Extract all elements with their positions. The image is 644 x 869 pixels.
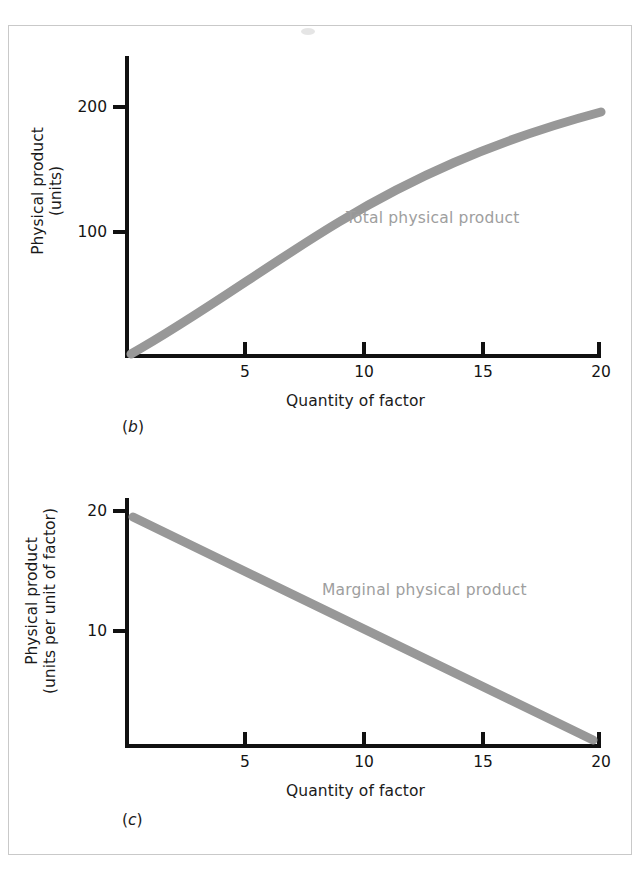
chart-panel-c: 20 10 5 10 15 20 Physical product (units… [9, 441, 633, 856]
total-physical-product-curve [131, 112, 601, 354]
x-axis-title: Quantity of factor [286, 392, 425, 410]
x-tick-label-20: 20 [581, 753, 621, 771]
y-axis-title-line2: (units per unit of factor) [41, 508, 59, 694]
x-tick-label-20: 20 [581, 363, 621, 381]
y-axis-title-line2: (units) [47, 166, 65, 216]
panel-tag-c: (c) [122, 811, 143, 829]
figure-frame: 200 100 5 10 15 20 Physical product (uni… [8, 25, 632, 855]
x-axis-title: Quantity of factor [286, 782, 425, 800]
y-axis-title: Physical product (units) [29, 76, 66, 306]
x-tick-label-5: 5 [225, 363, 265, 381]
x-tick-label-15: 15 [463, 363, 503, 381]
y-axis-title: Physical product (units per unit of fact… [23, 461, 60, 741]
marginal-physical-product-line [133, 517, 593, 740]
x-tick-label-5: 5 [225, 753, 265, 771]
y-axis-title-line1: Physical product [23, 537, 41, 665]
panel-tag-b-letter: b [128, 418, 138, 436]
panel-tag-b: (b) [122, 418, 144, 436]
total-physical-product-label: Total physical product [346, 209, 520, 227]
panel-tag-c-letter: c [128, 811, 137, 829]
y-axis-title-line1: Physical product [29, 127, 47, 255]
x-tick-label-10: 10 [344, 753, 384, 771]
x-tick-label-10: 10 [344, 363, 384, 381]
panel-tag-c-close: ) [137, 811, 143, 829]
chart-panel-b: 200 100 5 10 15 20 Physical product (uni… [9, 26, 633, 441]
marginal-physical-product-label: Marginal physical product [322, 581, 527, 599]
x-tick-label-15: 15 [463, 753, 503, 771]
panel-tag-b-close: ) [138, 418, 144, 436]
